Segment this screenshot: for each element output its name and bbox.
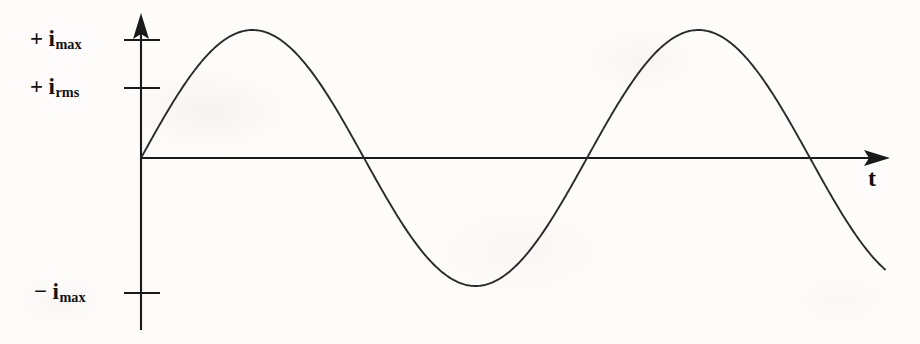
tick-label-imax-positive: +imax (30, 27, 82, 50)
waveform-figure (0, 0, 920, 344)
subscript-max: max (56, 36, 82, 52)
symbol-i-imax-neg: i (53, 279, 60, 304)
minus-sign-imax: − (34, 279, 48, 304)
symbol-i-imax: i (49, 26, 56, 51)
symbol-i-irms: i (49, 74, 56, 99)
plus-sign-irms: + (30, 74, 44, 99)
tick-label-imax-negative: −imax (34, 280, 86, 303)
plus-sign-imax: + (30, 26, 44, 51)
subscript-max-neg: max (60, 289, 86, 305)
tick-label-irms-positive: +irms (30, 75, 79, 98)
time-axis-label: t (868, 166, 876, 190)
subscript-rms: rms (56, 84, 80, 100)
figure-canvas: +imax +irms −imax t (0, 0, 920, 344)
